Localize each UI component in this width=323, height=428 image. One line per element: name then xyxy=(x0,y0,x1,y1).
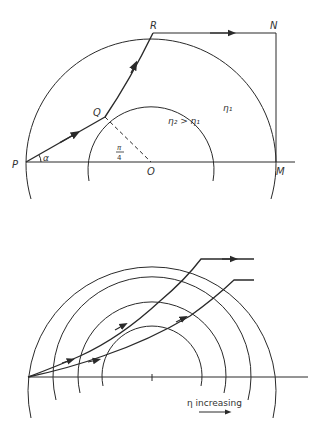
alpha-label: α xyxy=(43,153,49,163)
ray-pq-arrow xyxy=(60,134,76,143)
outer-region-label: η₁ xyxy=(223,103,233,113)
point-n-label: N xyxy=(270,20,278,31)
dashed-qo xyxy=(105,117,151,162)
inner-region-label: η₂ > η₁ xyxy=(168,116,200,126)
circle-1 xyxy=(28,267,276,418)
point-m-label: M xyxy=(276,166,285,177)
upper-ray-arrow-2 xyxy=(115,325,124,330)
top-figure xyxy=(26,33,295,199)
diagram-canvas: P Q R N M O α π 4 η₂ > η₁ η₁ η increasin… xyxy=(0,0,323,428)
point-r-label: R xyxy=(150,20,157,31)
circle-2 xyxy=(53,277,251,400)
bottom-figure xyxy=(28,259,308,418)
alpha-arc xyxy=(39,155,41,162)
pi-denominator: 4 xyxy=(117,154,122,162)
point-q-label: Q xyxy=(93,107,101,118)
point-o-label: O xyxy=(147,166,155,177)
upper-ray xyxy=(28,259,254,377)
increasing-caption: η increasing xyxy=(187,398,242,408)
point-p-label: P xyxy=(12,159,19,170)
pi-numerator: π xyxy=(117,144,122,152)
